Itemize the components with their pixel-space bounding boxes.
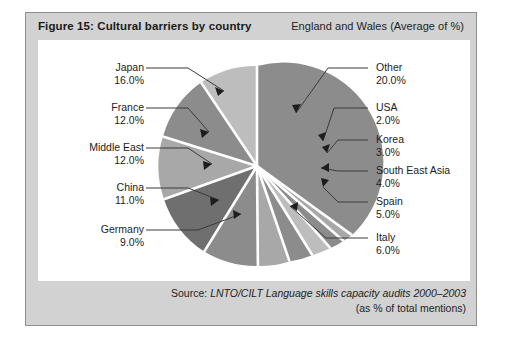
label-italy: Italy 6.0% xyxy=(376,231,400,256)
label-korea: Korea 3.0% xyxy=(376,133,404,158)
label-middle-east-name: Middle East xyxy=(89,141,144,153)
label-korea-value: 3.0% xyxy=(376,146,404,159)
pie-slices xyxy=(158,62,383,266)
figure-screenshot: Figure 15: Cultural barriers by country … xyxy=(0,0,507,356)
label-china-value: 11.0% xyxy=(115,194,144,207)
label-france: France 12.0% xyxy=(111,101,144,126)
label-usa: USA 2.0% xyxy=(376,101,400,126)
label-spain-name: Spain xyxy=(376,195,403,207)
label-germany-name: Germany xyxy=(101,223,144,235)
label-spain-value: 5.0% xyxy=(376,208,403,221)
label-china-name: China xyxy=(117,181,144,193)
label-japan-name: Japan xyxy=(115,61,144,73)
label-other: Other 20.0% xyxy=(376,61,406,86)
figure-subtitle: England and Wales (Average of %) xyxy=(291,20,464,32)
label-usa-value: 2.0% xyxy=(376,114,400,127)
label-japan: Japan 16.0% xyxy=(114,61,144,86)
label-south-east-asia-value: 4.0% xyxy=(376,177,450,190)
label-france-name: France xyxy=(111,101,144,113)
source-citation: LNTO/CILT Language skills capacity audit… xyxy=(210,287,466,299)
label-south-east-asia: South East Asia 4.0% xyxy=(376,164,450,189)
figure-header: Figure 15: Cultural barriers by country … xyxy=(26,13,476,39)
figure-source: Source: LNTO/CILT Language skills capaci… xyxy=(38,286,470,316)
label-spain: Spain 5.0% xyxy=(376,195,403,220)
label-france-value: 12.0% xyxy=(111,114,144,127)
label-italy-name: Italy xyxy=(376,231,395,243)
label-other-value: 20.0% xyxy=(376,74,406,87)
chart-plot-area: Japan 16.0% France 12.0% Middle East 12.… xyxy=(38,40,470,281)
label-middle-east: Middle East 12.0% xyxy=(89,141,144,166)
label-germany-value: 9.0% xyxy=(101,236,144,249)
label-middle-east-value: 12.0% xyxy=(89,154,144,167)
label-usa-name: USA xyxy=(376,101,398,113)
label-other-name: Other xyxy=(376,61,402,73)
label-germany: Germany 9.0% xyxy=(101,223,144,248)
source-prefix: Source: xyxy=(171,287,210,299)
label-china: China 11.0% xyxy=(115,181,144,206)
label-japan-value: 16.0% xyxy=(114,74,144,87)
label-korea-name: Korea xyxy=(376,133,404,145)
source-note: (as % of total mentions) xyxy=(38,301,466,316)
figure-title: Figure 15: Cultural barriers by country xyxy=(38,20,252,32)
label-south-east-asia-name: South East Asia xyxy=(376,164,450,176)
label-italy-value: 6.0% xyxy=(376,244,400,257)
